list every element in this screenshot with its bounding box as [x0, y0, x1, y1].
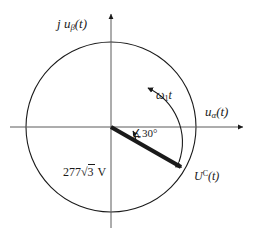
magnitude-radicand: 3	[88, 164, 95, 179]
omega-rotation-label: ω1t	[156, 89, 172, 103]
phasor-symbol: U	[194, 169, 203, 183]
angle-value: 30°	[142, 127, 157, 139]
alpha-axis-label: uα(t)	[205, 105, 228, 120]
magnitude-coefficient: 277	[63, 165, 81, 179]
angle-label: ∡30°	[132, 128, 157, 139]
phasor-arg: (t)	[208, 169, 219, 183]
beta-axis-label-arg: (t)	[75, 16, 87, 31]
omega-time: t	[169, 88, 172, 102]
phasor-label: UC(t)	[194, 170, 219, 182]
magnitude-unit: V	[98, 165, 107, 179]
alpha-axis-label-arg: (t)	[216, 104, 228, 119]
beta-axis-label: j uβ(t)	[57, 17, 87, 32]
phasor-magnitude-label: 277√3 V	[63, 166, 106, 178]
beta-axis-label-j: j	[57, 16, 61, 31]
magnitude-radical: √	[81, 165, 88, 179]
phasor-diagram-figure: j uβ(t) uα(t) ω1t ∡30° 277√3 V UC(t)	[0, 0, 253, 239]
angle-symbol: ∡	[132, 127, 142, 139]
